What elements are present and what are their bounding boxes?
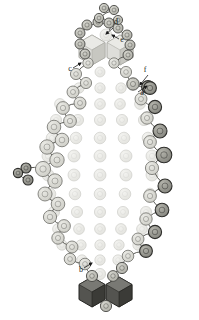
chain-circle — [123, 50, 133, 60]
inner-circle — [95, 67, 105, 77]
chain-circle — [140, 213, 152, 225]
chain-circle — [144, 82, 157, 95]
chain-circle — [100, 300, 111, 311]
inner-circle — [116, 114, 127, 125]
chain-circle — [127, 78, 139, 90]
chain-circle — [144, 136, 157, 149]
inner-circle — [114, 240, 124, 250]
chain-circle — [109, 5, 118, 14]
chain-circle — [86, 270, 97, 281]
inner-circle — [94, 150, 106, 162]
chain-circle — [99, 3, 108, 12]
chain-circle — [40, 140, 54, 154]
inner-circle — [115, 99, 126, 110]
chain-circle — [158, 179, 172, 193]
inner-circle — [95, 99, 106, 110]
inner-circle — [95, 240, 105, 250]
chain-circle — [13, 168, 22, 177]
inner-circle — [69, 188, 81, 200]
chain-circle — [67, 86, 79, 98]
leader-line-c — [73, 63, 81, 68]
chain-circle — [57, 102, 70, 115]
inner-circle — [94, 206, 105, 217]
chain-circle — [64, 253, 76, 265]
inner-circle — [119, 188, 131, 200]
chain-circle — [64, 115, 77, 128]
chain-circle — [35, 161, 50, 176]
inner-circle — [94, 188, 106, 200]
label-d: d — [114, 17, 118, 26]
chain-circle — [70, 68, 81, 79]
inner-circle — [116, 224, 127, 235]
chain-circle — [82, 20, 92, 30]
chain-circle — [108, 271, 119, 282]
chain-circle — [75, 39, 85, 49]
chain-circle — [155, 203, 169, 217]
chain-circle — [132, 233, 144, 245]
chain-circle — [122, 250, 134, 262]
chain-circle — [58, 220, 71, 233]
label-c: c — [68, 64, 72, 73]
inner-circle — [95, 83, 105, 93]
chain-circle — [148, 100, 161, 113]
chain-circle — [38, 187, 52, 201]
chain-circle — [153, 124, 167, 138]
chain-circle — [148, 225, 161, 238]
inner-circle — [117, 206, 128, 217]
chain-circle — [43, 210, 56, 223]
chain-circle — [66, 241, 78, 253]
label-b: b — [79, 265, 83, 274]
chain-circle — [145, 161, 158, 174]
chain-circle — [55, 133, 69, 147]
inner-circle — [94, 132, 106, 144]
chain-circle — [52, 232, 64, 244]
inner-circle — [68, 169, 80, 181]
label-e: e — [120, 35, 124, 44]
chain-circle — [74, 97, 86, 109]
inner-circle — [95, 255, 105, 265]
chain-circle — [125, 40, 135, 50]
chain-circle — [80, 49, 90, 59]
chain-circle — [80, 77, 91, 88]
inner-circle — [71, 206, 82, 217]
chain-circle — [156, 147, 172, 163]
inner-circle — [68, 150, 80, 162]
inner-circle — [94, 114, 105, 125]
chain-circle — [75, 28, 85, 38]
chain-circle — [116, 262, 127, 273]
chain-circle — [48, 174, 62, 188]
chain-circle — [141, 112, 153, 124]
inner-circle — [94, 169, 106, 181]
inner-circle — [120, 169, 132, 181]
chain-circle — [120, 66, 131, 77]
label-f: f — [144, 65, 147, 74]
chain-circle — [47, 120, 61, 134]
chain-circle — [51, 197, 65, 211]
inner-circle — [95, 224, 106, 235]
chain-circle — [104, 18, 114, 28]
label-a: a — [140, 88, 144, 97]
chain-circle — [144, 190, 157, 203]
chain-circle — [50, 153, 64, 167]
inner-circle — [118, 132, 130, 144]
assembly-diagram: abcdef — [0, 0, 199, 320]
inner-circle — [74, 224, 85, 235]
inner-circle — [116, 83, 126, 93]
inner-circle — [120, 150, 132, 162]
chain-circle — [23, 175, 33, 185]
chain-circle — [140, 245, 153, 258]
figure-canvas: abcdef — [0, 0, 199, 320]
chain-circle — [94, 13, 103, 22]
inner-circle — [70, 132, 82, 144]
chain-circle — [109, 58, 119, 68]
